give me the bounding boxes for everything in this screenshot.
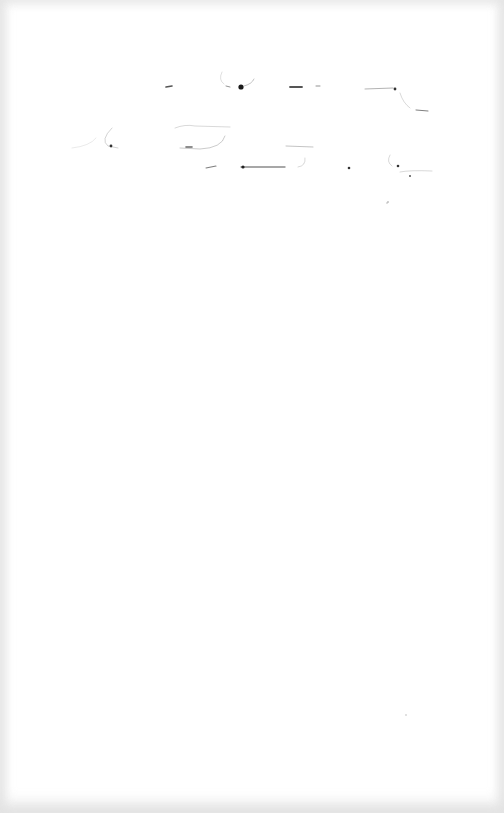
handwriting-fragments: [0, 0, 504, 813]
handwriting-line-3: [206, 155, 432, 203]
scan-specks: [386, 202, 407, 716]
scanned-page: [0, 0, 504, 813]
handwriting-line-1: [166, 72, 428, 111]
handwriting-line-2: [72, 125, 313, 149]
